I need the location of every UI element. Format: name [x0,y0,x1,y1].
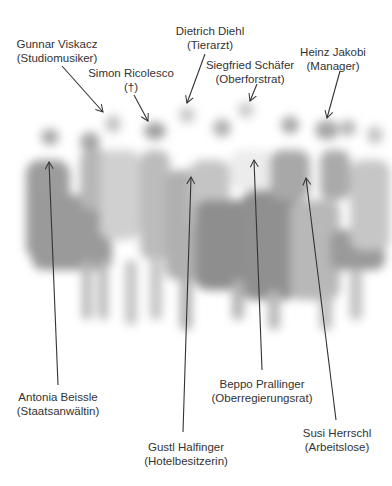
person-name: Gunnar Viskacz [17,37,98,51]
person-name: Beppo Prallinger [212,377,313,391]
person-role: (†) [88,80,174,94]
person-name: Simon Ricolesco [88,66,174,80]
arrow [254,160,262,370]
arrow [49,162,58,385]
person-name: Gustl Halfinger [144,440,228,454]
person-name: Siegfried Schäfer [206,58,294,72]
person-role: (Manager) [300,59,366,73]
person-label: Gustl Halfinger(Hotelbesitzerin) [144,440,228,468]
person-role: (Studiomusiker) [17,51,98,65]
person-label: Dietrich Diehl(Tierarzt) [176,24,244,52]
arrow [250,84,257,101]
person-name: Antonia Beissle [17,390,99,404]
person-label: Susi Herrschl(Arbeitslose) [303,426,371,454]
person-role: (Staatsanwältin) [17,404,99,418]
person-label: Siegfried Schäfer(Oberforstrat) [206,58,294,86]
person-role: (Hotelbesitzerin) [144,454,228,468]
person-label: Simon Ricolesco(†) [88,66,174,94]
person-name: Dietrich Diehl [176,24,244,38]
arrow [183,177,191,432]
person-label: Antonia Beissle(Staatsanwältin) [17,390,99,418]
person-role: (Oberregierungsrat) [212,391,313,405]
person-role: (Arbeitslose) [303,440,371,454]
person-name: Susi Herrschl [303,426,371,440]
arrow [134,95,148,121]
person-label: Heinz Jakobi(Manager) [300,45,366,73]
arrow [187,54,205,103]
person-role: (Oberforstrat) [206,72,294,86]
arrow [327,71,340,118]
person-label: Beppo Prallinger(Oberregierungsrat) [212,377,313,405]
person-name: Heinz Jakobi [300,45,366,59]
person-role: (Tierarzt) [176,38,244,52]
person-label: Gunnar Viskacz(Studiomusiker) [17,37,98,65]
